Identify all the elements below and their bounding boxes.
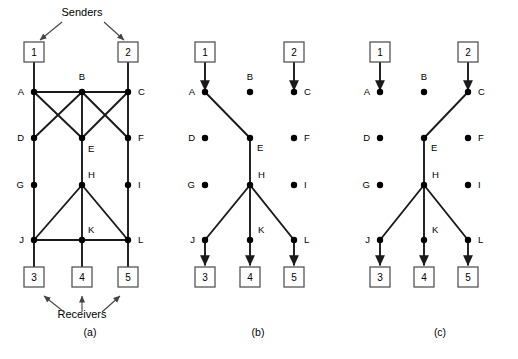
receiver-box-4[interactable]: 4 (240, 267, 260, 287)
panel-b: ABCDEFGHIJKL12345(b) (188, 42, 311, 338)
node-A[interactable] (202, 89, 208, 95)
node-B[interactable] (79, 89, 85, 95)
node-H[interactable] (421, 182, 427, 188)
sender-box-1[interactable]: 1 (370, 42, 390, 62)
node-C[interactable] (125, 89, 131, 95)
edge-H-J (380, 185, 424, 240)
node-H[interactable] (247, 182, 253, 188)
node-label-G: G (188, 179, 195, 190)
node-label-B: B (247, 71, 253, 82)
node-label-C: C (138, 86, 145, 97)
receiver-box-3[interactable]: 3 (24, 267, 44, 287)
node-L[interactable] (291, 237, 297, 243)
panel-a-caption: (a) (84, 326, 97, 338)
sender-box-2-label: 2 (465, 47, 471, 58)
node-G[interactable] (31, 182, 37, 188)
node-label-J: J (190, 234, 195, 245)
node-label-B: B (421, 71, 427, 82)
node-D[interactable] (31, 135, 37, 141)
edge-H-L (250, 185, 294, 240)
node-label-L: L (138, 234, 143, 245)
node-label-H: H (432, 169, 439, 180)
receiver-box-5[interactable]: 5 (118, 267, 138, 287)
node-E[interactable] (247, 135, 253, 141)
node-J[interactable] (202, 237, 208, 243)
node-E[interactable] (421, 135, 427, 141)
receiver-box-4-label: 4 (79, 272, 85, 283)
receiver-box-4[interactable]: 4 (414, 267, 434, 287)
node-label-H: H (88, 169, 95, 180)
node-D[interactable] (202, 135, 208, 141)
node-label-D: D (188, 132, 195, 143)
node-I[interactable] (125, 182, 131, 188)
edge-H-J (34, 185, 82, 240)
node-label-G: G (363, 179, 370, 190)
node-J[interactable] (377, 237, 383, 243)
node-J[interactable] (31, 237, 37, 243)
sender-box-2[interactable]: 2 (284, 42, 304, 62)
node-F[interactable] (465, 135, 471, 141)
receiver-box-4[interactable]: 4 (72, 267, 92, 287)
node-K[interactable] (79, 237, 85, 243)
node-label-F: F (478, 132, 484, 143)
node-K[interactable] (421, 237, 427, 243)
node-label-F: F (138, 132, 144, 143)
receiver-box-3[interactable]: 3 (370, 267, 390, 287)
node-label-H: H (258, 169, 265, 180)
node-label-D: D (363, 132, 370, 143)
edge-H-J (205, 185, 250, 240)
node-K[interactable] (247, 237, 253, 243)
node-A[interactable] (377, 89, 383, 95)
node-G[interactable] (202, 182, 208, 188)
node-L[interactable] (125, 237, 131, 243)
receivers-pointer-3 (102, 296, 120, 312)
receiver-box-4-label: 4 (247, 272, 253, 283)
node-E[interactable] (79, 135, 85, 141)
node-C[interactable] (465, 89, 471, 95)
receiver-box-5[interactable]: 5 (458, 267, 478, 287)
node-A[interactable] (31, 89, 37, 95)
node-F[interactable] (291, 135, 297, 141)
node-label-A: A (364, 86, 371, 97)
edge-H-L (424, 185, 468, 240)
edge-A-E (205, 92, 250, 138)
sender-box-1[interactable]: 1 (195, 42, 215, 62)
node-label-A: A (189, 86, 196, 97)
receiver-box-3-label: 3 (202, 272, 208, 283)
panel-c-edges (380, 92, 468, 240)
node-L[interactable] (465, 237, 471, 243)
sender-box-1[interactable]: 1 (24, 42, 44, 62)
sender-box-2[interactable]: 2 (458, 42, 478, 62)
node-H[interactable] (79, 182, 85, 188)
node-I[interactable] (291, 182, 297, 188)
panel-b-caption: (b) (252, 326, 265, 338)
node-label-C: C (478, 86, 485, 97)
node-C[interactable] (291, 89, 297, 95)
sender-box-2-label: 2 (291, 47, 297, 58)
receiver-box-5-label: 5 (125, 272, 131, 283)
panel-a: ABCDEFGHIJKL12345(a) (17, 42, 145, 338)
node-label-C: C (304, 86, 311, 97)
receiver-box-3[interactable]: 3 (195, 267, 215, 287)
node-F[interactable] (125, 135, 131, 141)
panel-a-edges (34, 92, 128, 240)
node-label-J: J (19, 234, 24, 245)
receiver-box-5-label: 5 (291, 272, 297, 283)
receiver-box-5[interactable]: 5 (284, 267, 304, 287)
node-label-L: L (478, 234, 483, 245)
panel-c-caption: (c) (434, 326, 446, 338)
node-label-K: K (258, 224, 265, 235)
node-D[interactable] (377, 135, 383, 141)
node-B[interactable] (421, 89, 427, 95)
node-label-K: K (432, 224, 439, 235)
node-label-A: A (18, 86, 25, 97)
panels-layer: ABCDEFGHIJKL12345(a)ABCDEFGHIJKL12345(b)… (17, 42, 485, 338)
receiver-box-5-label: 5 (465, 272, 471, 283)
node-G[interactable] (377, 182, 383, 188)
node-I[interactable] (465, 182, 471, 188)
sender-box-2[interactable]: 2 (118, 42, 138, 62)
node-B[interactable] (247, 89, 253, 95)
senders-pointer-1 (40, 22, 62, 40)
network-multicast-figure: ABCDEFGHIJKL12345(a)ABCDEFGHIJKL12345(b)… (0, 0, 518, 359)
receiver-box-4-label: 4 (421, 272, 427, 283)
